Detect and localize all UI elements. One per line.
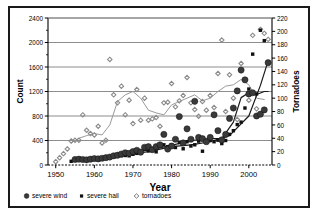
data-point xyxy=(247,87,250,90)
data-point xyxy=(188,136,194,142)
data-point xyxy=(193,143,196,146)
y-axis-right-tick-label: 20 xyxy=(277,148,285,155)
x-axis-tick-label: 1990 xyxy=(202,170,219,179)
data-point xyxy=(263,39,266,42)
data-point xyxy=(243,106,246,109)
data-point xyxy=(265,60,271,66)
y-axis-left-tick-label: 800 xyxy=(32,113,43,120)
data-point xyxy=(251,52,254,55)
y-axis-left-tick-label: 400 xyxy=(32,137,43,144)
data-point xyxy=(261,107,267,113)
data-point xyxy=(239,120,242,123)
y-axis-left-tick-label: 2400 xyxy=(29,15,44,22)
data-point xyxy=(201,150,204,153)
y-axis-right-tick-label: 0 xyxy=(277,162,281,169)
data-point xyxy=(189,144,192,147)
y-axis-left-title: Count xyxy=(15,79,25,103)
image-border-frame: 0400800120016002000240002040608010012014… xyxy=(8,6,310,208)
y-axis-right-tick-label: 180 xyxy=(277,41,288,48)
x-axis-tick-label: 1960 xyxy=(86,170,103,179)
y-axis-right-tick-label: 120 xyxy=(277,81,288,88)
y-axis-left-tick-label: 1600 xyxy=(29,64,44,71)
y-axis-right-tick-label: 100 xyxy=(277,95,288,102)
y-axis-left-tick-label: 1200 xyxy=(29,88,44,95)
data-point xyxy=(172,136,178,142)
y-axis-right-tick-label: 80 xyxy=(277,108,285,115)
data-point xyxy=(192,98,198,104)
legend-label: tornadoes xyxy=(142,192,172,199)
legend-marker-severe-hail xyxy=(80,194,83,197)
scatter-chart: 0400800120016002000240002040608010012014… xyxy=(10,8,308,206)
data-point xyxy=(211,112,217,118)
legend-label: severe wind xyxy=(32,192,68,199)
x-axis-tick-label: 1980 xyxy=(163,170,180,179)
y-axis-right-tick-label: 40 xyxy=(277,135,285,142)
data-point xyxy=(236,123,239,126)
legend-label: severe hail xyxy=(87,192,119,199)
y-axis-left-tick-label: 0 xyxy=(39,162,43,169)
y-axis-right-title: Tornadoes xyxy=(291,70,301,113)
data-point xyxy=(250,90,256,96)
y-axis-left-tick-label: 2000 xyxy=(29,39,44,46)
data-point xyxy=(242,77,248,83)
chart-legend: severe windsevere hailtornadoes xyxy=(24,192,172,199)
x-axis-tick-label: 1970 xyxy=(125,170,142,179)
data-point xyxy=(161,131,167,137)
y-axis-right-tick-label: 220 xyxy=(277,15,288,22)
data-point xyxy=(157,142,163,148)
data-point xyxy=(181,147,184,150)
legend-marker-tornadoes xyxy=(134,194,139,198)
data-point xyxy=(232,129,235,132)
data-point xyxy=(226,115,232,121)
data-point xyxy=(230,105,236,111)
data-point xyxy=(180,140,186,146)
y-axis-right-tick-label: 140 xyxy=(277,68,288,75)
data-point xyxy=(207,134,213,140)
x-axis-tick-label: 2000 xyxy=(240,170,257,179)
x-axis-tick-label: 1950 xyxy=(47,170,64,179)
data-point xyxy=(176,114,182,120)
data-point xyxy=(212,140,215,143)
y-axis-right-tick-label: 60 xyxy=(277,122,285,129)
legend-marker-severe-wind xyxy=(24,194,29,199)
data-point xyxy=(168,143,174,149)
data-point xyxy=(238,67,244,73)
data-point xyxy=(219,137,225,143)
data-point xyxy=(184,126,190,132)
y-axis-right-tick-label: 200 xyxy=(277,28,288,35)
data-point xyxy=(234,88,240,94)
data-point xyxy=(259,29,262,32)
chart-figure: 0400800120016002000240002040608010012014… xyxy=(10,8,308,206)
y-axis-right-tick-label: 160 xyxy=(277,55,288,62)
data-point xyxy=(215,128,221,134)
data-point xyxy=(223,131,229,137)
